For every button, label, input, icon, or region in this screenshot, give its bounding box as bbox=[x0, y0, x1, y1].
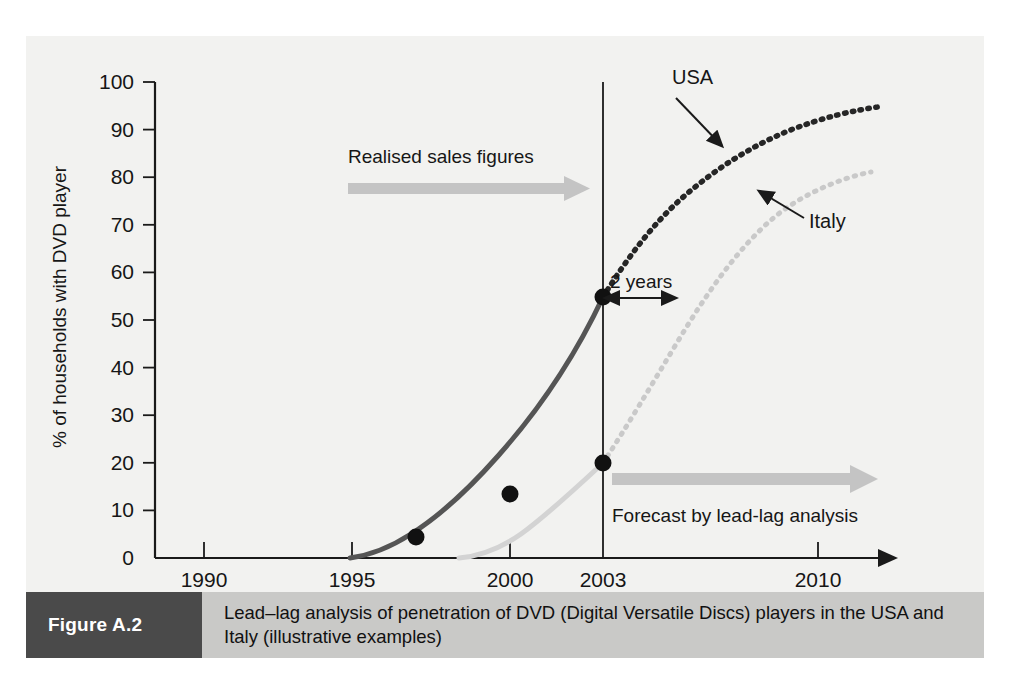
data-point-marker bbox=[502, 486, 519, 503]
y-tick-label: 100 bbox=[99, 70, 134, 93]
y-tick-label: 60 bbox=[111, 260, 134, 283]
italy-series-label: Italy bbox=[809, 210, 846, 232]
y-tick-label: 40 bbox=[111, 356, 134, 379]
data-point-marker bbox=[408, 529, 425, 546]
x-tick-label: 1990 bbox=[181, 568, 228, 591]
x-axis-arrowhead bbox=[878, 549, 898, 567]
usa-forecast-curve bbox=[603, 107, 878, 297]
figure-number-label: Figure A.2 bbox=[26, 592, 202, 658]
two-year-gap-label: 2 years bbox=[610, 271, 672, 292]
annotation-usa-pointer: USA bbox=[672, 66, 722, 146]
annotation-forecast: Forecast by lead-lag analysis bbox=[612, 465, 878, 526]
lead-lag-chart: 100 90 80 70 60 50 40 30 20 10 0 % of ho… bbox=[26, 36, 984, 592]
usa-pointer-arrow-icon bbox=[676, 98, 722, 146]
x-tick-label: 2000 bbox=[487, 568, 534, 591]
chart-plot-area: 100 90 80 70 60 50 40 30 20 10 0 % of ho… bbox=[26, 36, 984, 592]
y-axis-title: % of households with DVD player bbox=[49, 165, 70, 448]
y-tick-label: 50 bbox=[111, 308, 134, 331]
figure-card: 100 90 80 70 60 50 40 30 20 10 0 % of ho… bbox=[26, 36, 984, 658]
realised-sales-label: Realised sales figures bbox=[348, 146, 534, 167]
x-axis-ticks bbox=[204, 542, 818, 558]
figure-page: 100 90 80 70 60 50 40 30 20 10 0 % of ho… bbox=[0, 0, 1010, 685]
annotation-realised-sales: Realised sales figures bbox=[348, 146, 590, 201]
usa-series-label: USA bbox=[672, 66, 714, 88]
figure-caption-bar: Figure A.2 Lead–lag analysis of penetrat… bbox=[26, 592, 984, 658]
figure-caption-text: Lead–lag analysis of penetration of DVD … bbox=[202, 592, 984, 658]
y-axis-tick-labels: 100 90 80 70 60 50 40 30 20 10 0 bbox=[99, 70, 134, 569]
data-point-marker bbox=[595, 455, 612, 472]
x-tick-label: 2003 bbox=[580, 568, 627, 591]
x-tick-label: 2010 bbox=[795, 568, 842, 591]
y-tick-label: 80 bbox=[111, 165, 134, 188]
forecast-label: Forecast by lead-lag analysis bbox=[612, 505, 858, 526]
y-tick-label: 70 bbox=[111, 213, 134, 236]
usa-data-markers bbox=[408, 289, 612, 546]
y-tick-label: 0 bbox=[122, 546, 134, 569]
forecast-arrow-icon bbox=[612, 465, 878, 493]
y-tick-label: 30 bbox=[111, 403, 134, 426]
x-axis-tick-labels: 1990 1995 2000 2003 2010 bbox=[181, 568, 842, 591]
y-tick-label: 10 bbox=[111, 498, 134, 521]
realised-sales-arrow-icon bbox=[348, 176, 590, 201]
y-axis-ticks bbox=[143, 82, 155, 510]
y-tick-label: 90 bbox=[111, 118, 134, 141]
x-tick-label: 1995 bbox=[329, 568, 376, 591]
annotation-two-year-gap: 2 years bbox=[605, 271, 676, 298]
usa-realised-curve bbox=[350, 297, 603, 558]
y-tick-label: 20 bbox=[111, 451, 134, 474]
italy-data-markers bbox=[595, 455, 612, 472]
